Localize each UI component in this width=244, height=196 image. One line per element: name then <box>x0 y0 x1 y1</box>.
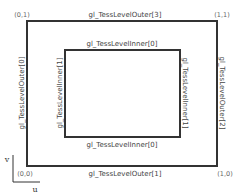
v-axis-label: v <box>4 155 10 164</box>
corner-label-top-right: (1,1) <box>214 11 229 19</box>
tessellation-diagram: (0,1) (1,1) (0,0) (1,0) gl_TessLevelOute… <box>0 0 244 196</box>
outer-left-label: gl_TessLevelOuter[0] <box>18 56 26 129</box>
inner-bottom-label: gl_TessLevelInner[0] <box>86 141 157 149</box>
inner-rectangle <box>65 50 180 137</box>
corner-label-bottom-left: (0,0) <box>17 170 32 178</box>
outer-top-label: gl_TessLevelOuter[3] <box>89 11 162 19</box>
corner-label-bottom-right: (1,0) <box>217 170 232 178</box>
corner-label-top-left: (0,1) <box>14 11 29 19</box>
u-axis-label: u <box>32 185 37 194</box>
inner-left-label: gl_TessLevelInner[1] <box>56 57 64 128</box>
inner-top-label: gl_TessLevelInner[0] <box>86 40 157 48</box>
inner-right-label: gl_TessLevelInner[1] <box>181 57 189 128</box>
outer-bottom-label: gl_TessLevelOuter[1] <box>89 170 162 178</box>
outer-right-label: gl_TessLevelOuter[2] <box>218 57 226 130</box>
